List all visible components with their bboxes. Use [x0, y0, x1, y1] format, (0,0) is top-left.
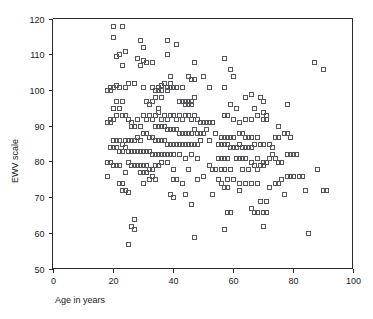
data-point — [244, 118, 248, 122]
data-point — [112, 107, 116, 111]
data-point — [262, 225, 266, 229]
data-point — [223, 228, 227, 232]
data-point — [208, 164, 212, 168]
data-point — [115, 100, 119, 104]
data-point — [169, 82, 173, 86]
data-point — [214, 132, 218, 136]
scatter-plot-figure: 5060708090100110120 020406080100 Age in … — [0, 0, 373, 319]
data-point — [256, 168, 260, 172]
data-point — [256, 157, 260, 161]
plot-frame — [53, 19, 353, 269]
data-point — [124, 50, 128, 54]
data-point — [163, 114, 167, 118]
data-point — [247, 168, 251, 172]
data-point — [193, 61, 197, 65]
data-point — [253, 107, 257, 111]
data-point — [142, 86, 146, 90]
data-point — [139, 64, 143, 68]
data-point — [211, 193, 215, 197]
data-point — [190, 153, 194, 157]
data-point — [121, 100, 125, 104]
x-axis-title: Age in years — [55, 295, 106, 305]
data-point — [166, 118, 170, 122]
y-tick-label: 70 — [34, 193, 44, 203]
data-point — [193, 128, 197, 132]
data-point — [268, 157, 272, 161]
chart-canvas: 5060708090100110120 020406080100 Age in … — [0, 0, 373, 319]
data-point — [124, 171, 128, 175]
data-point — [127, 82, 131, 86]
data-point — [238, 182, 242, 186]
data-point — [124, 86, 128, 90]
data-point — [166, 161, 170, 165]
data-point — [268, 186, 272, 190]
data-point — [166, 53, 170, 57]
data-point — [280, 178, 284, 182]
data-point — [322, 68, 326, 72]
data-point — [136, 118, 140, 122]
data-point — [202, 75, 206, 79]
data-point — [196, 157, 200, 161]
data-point — [226, 178, 230, 182]
data-point — [193, 96, 197, 100]
data-point — [169, 75, 173, 79]
data-point — [175, 118, 179, 122]
data-point — [316, 168, 320, 172]
data-point — [199, 139, 203, 143]
data-point — [178, 153, 182, 157]
data-point — [160, 118, 164, 122]
data-point — [259, 200, 263, 204]
y-tick-label: 100 — [29, 86, 44, 96]
data-point — [115, 114, 119, 118]
data-point — [133, 218, 137, 222]
data-point — [142, 182, 146, 186]
data-point — [178, 114, 182, 118]
data-point — [157, 107, 161, 111]
data-point — [127, 243, 131, 247]
data-point — [232, 118, 236, 122]
data-point — [256, 182, 260, 186]
y-tick-label: 120 — [29, 15, 44, 25]
data-point — [274, 157, 278, 161]
data-point — [229, 168, 233, 172]
y-axis-ticks: 5060708090100110120 — [29, 15, 52, 275]
data-point — [139, 39, 143, 43]
data-point — [136, 57, 140, 61]
data-point — [151, 118, 155, 122]
y-tick-label: 110 — [30, 50, 44, 60]
data-point — [223, 57, 227, 61]
x-tick-label: 80 — [288, 276, 298, 286]
data-point — [106, 175, 110, 179]
data-point — [235, 107, 239, 111]
data-point — [289, 136, 293, 140]
data-point — [238, 121, 242, 125]
data-point — [313, 61, 317, 65]
data-point — [259, 96, 263, 100]
data-point — [277, 125, 281, 129]
data-point — [193, 236, 197, 240]
data-point — [250, 118, 254, 122]
data-point — [220, 182, 224, 186]
data-point — [175, 43, 179, 47]
data-point — [142, 114, 146, 118]
data-point — [160, 96, 164, 100]
y-tick-label: 80 — [34, 157, 44, 167]
data-point — [112, 36, 116, 40]
data-point — [265, 200, 269, 204]
data-point — [232, 75, 236, 79]
x-axis-ticks: 020406080100 — [51, 269, 361, 286]
data-point — [181, 118, 185, 122]
data-point — [187, 168, 191, 172]
data-point — [202, 175, 206, 179]
data-point — [307, 232, 311, 236]
x-tick-label: 40 — [168, 276, 178, 286]
data-point — [256, 136, 260, 140]
data-point — [172, 168, 176, 172]
y-axis-title: EWV scale — [10, 139, 20, 183]
data-point — [181, 86, 185, 90]
data-point — [217, 178, 221, 182]
data-point — [208, 86, 212, 90]
y-tick-label: 90 — [34, 122, 44, 132]
data-point — [241, 168, 245, 172]
data-point — [166, 39, 170, 43]
